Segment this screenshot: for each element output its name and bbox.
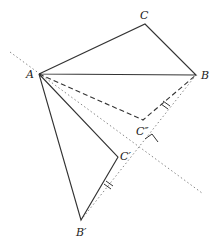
label-c: C — [140, 9, 149, 22]
reflection-axis — [10, 52, 202, 193]
tick-marks-c2-b — [161, 101, 170, 109]
label-b-prime: B′ — [75, 226, 87, 239]
triangle-abc — [39, 24, 196, 75]
label-c-double-prime: C″ — [136, 125, 149, 138]
line-bb-prime — [81, 75, 196, 220]
label-a: A — [25, 68, 34, 81]
label-b: B — [200, 69, 209, 82]
triangle-ab-prime-c-prime — [39, 74, 118, 220]
label-c-prime: C′ — [120, 150, 131, 163]
dashed-path-a-c2-b — [39, 74, 196, 120]
geometry-diagram: A B C C″ C′ B′ — [0, 0, 221, 245]
